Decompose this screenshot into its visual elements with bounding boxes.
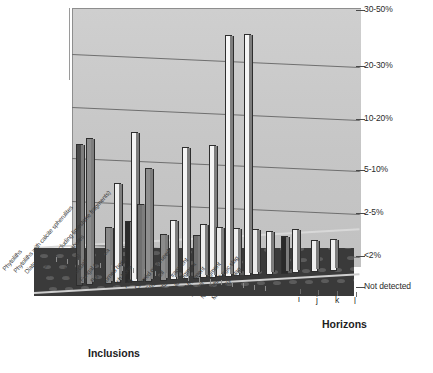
horizon-label: k	[335, 295, 339, 305]
bar-side-face	[271, 232, 275, 272]
bar-side-face	[297, 230, 301, 270]
depth-axis-tick-mark	[232, 282, 233, 287]
horizons-axis-title: Horizons	[322, 318, 367, 330]
wall-vertical-divider	[69, 8, 70, 80]
floor-cell	[302, 269, 310, 273]
horizon-label: l	[354, 296, 356, 306]
bar	[281, 238, 288, 274]
depth-axis-tick-mark	[265, 286, 266, 291]
y-axis-tick-label: Not detected	[364, 281, 411, 291]
bar	[209, 147, 216, 278]
bar-side-face	[335, 240, 339, 268]
bar	[292, 231, 299, 273]
floor-cell	[350, 267, 354, 271]
horizon-axis-tick-mark	[356, 292, 357, 297]
floor-cell	[337, 279, 345, 283]
bar	[137, 206, 144, 282]
bar	[252, 231, 259, 275]
depth-axis-tick-mark	[100, 263, 101, 268]
bar-side-face	[257, 230, 261, 272]
floor-cell	[344, 248, 352, 249]
y-axis-tick-label: 2-5%	[364, 207, 383, 217]
bar	[244, 36, 251, 276]
floor-cell	[257, 281, 265, 285]
floor-cell	[321, 279, 329, 283]
bar	[225, 37, 232, 277]
y-axis-tick-label: 20-30%	[364, 60, 393, 70]
depth-axis-tick-mark	[254, 285, 255, 290]
floor-cell	[353, 278, 354, 282]
depth-axis-tick-mark	[133, 268, 134, 273]
floor-cell	[289, 280, 297, 284]
floor-cell	[347, 256, 354, 260]
y-axis-tick-label: 30-50%	[364, 4, 393, 14]
y-axis-tick-label: 10-20%	[364, 113, 393, 123]
y-axis-tick-label: 5-10%	[364, 164, 388, 174]
bar	[311, 242, 318, 272]
floor-cell	[318, 268, 326, 272]
bar	[330, 241, 337, 271]
horizon-label: j	[316, 295, 318, 305]
y-axis-tick-label: <2%	[364, 250, 381, 260]
bar-side-face	[286, 237, 290, 271]
floor-cell	[273, 281, 281, 285]
floor-cell	[305, 280, 313, 284]
bar-side-face	[316, 241, 320, 269]
horizon-label: i	[298, 294, 300, 304]
depth-axis-tick-mark	[243, 283, 244, 288]
horizon-axis-tick-mark	[318, 290, 319, 295]
bar	[266, 233, 273, 275]
chart-figure: 30-50%20-30%10-20%5-10%2-5%<2%Not detect…	[0, 0, 433, 373]
bar-side-face	[187, 148, 191, 276]
horizon-axis-tick-mark	[300, 289, 301, 294]
inclusions-axis-title: Inclusions	[88, 347, 140, 359]
